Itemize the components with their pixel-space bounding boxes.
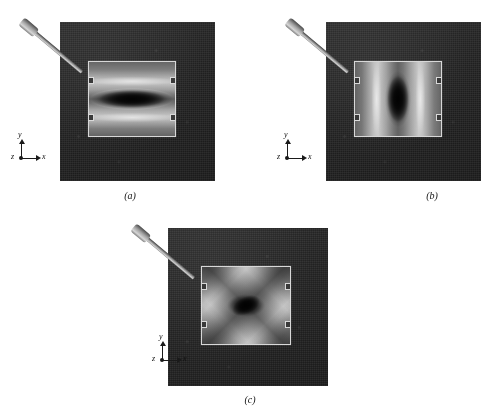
- axis-label-x-b: x: [308, 153, 312, 161]
- clamp-tab-a-right-bottom: [170, 114, 176, 121]
- clamp-tab-b-left-top: [354, 77, 360, 84]
- figure-panel-set: y x z (a) y x z (b): [0, 0, 501, 413]
- axis-y-arrow-c: [160, 341, 166, 346]
- panel-caption-c: (c): [230, 394, 270, 405]
- fringe-field-c: [202, 267, 290, 344]
- axis-label-z-a: z: [11, 153, 14, 161]
- fringe-field-a: [89, 62, 175, 136]
- clamp-tab-a-left-top: [88, 77, 94, 84]
- axis-label-z-c: z: [152, 355, 155, 363]
- clamp-tab-b-left-bottom: [354, 114, 360, 121]
- clamp-tab-b-right-bottom: [436, 114, 442, 121]
- clamp-tab-c-right-top: [285, 283, 291, 290]
- axis-y-arrow-a: [19, 139, 25, 144]
- axis-label-x-c: x: [183, 355, 187, 363]
- axis-z-dot-c: [160, 358, 164, 362]
- axis-y-arrow-b: [285, 139, 291, 144]
- axis-label-y-a: y: [18, 131, 22, 139]
- axis-label-z-b: z: [277, 153, 280, 161]
- axis-label-y-c: y: [159, 333, 163, 341]
- fringe-field-b: [355, 62, 441, 136]
- specimen-plate-b: [354, 61, 442, 137]
- clamp-tab-a-left-bottom: [88, 114, 94, 121]
- panel-caption-a: (a): [110, 190, 150, 201]
- axis-x-arrow-c: [177, 357, 182, 363]
- panel-caption-b: (b): [412, 190, 452, 201]
- axis-label-x-a: x: [42, 153, 46, 161]
- axis-z-dot-b: [285, 156, 289, 160]
- axis-x-arrow-a: [36, 155, 41, 161]
- specimen-plate-c: [201, 266, 291, 345]
- panel-c: y x z (c): [168, 228, 333, 408]
- axis-z-dot-a: [19, 156, 23, 160]
- axis-label-y-b: y: [284, 131, 288, 139]
- clamp-tab-c-left-top: [201, 283, 207, 290]
- clamp-tab-a-right-top: [170, 77, 176, 84]
- clamp-tab-c-left-bottom: [201, 321, 207, 328]
- panel-b: y x z (b): [326, 22, 481, 202]
- clamp-tab-c-right-bottom: [285, 321, 291, 328]
- specimen-plate-a: [88, 61, 176, 137]
- panel-a: y x z (a): [60, 22, 215, 202]
- axis-x-arrow-b: [302, 155, 307, 161]
- clamp-tab-b-right-top: [436, 77, 442, 84]
